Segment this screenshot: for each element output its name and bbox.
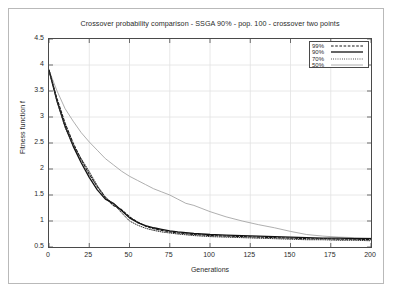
plot-area bbox=[48, 38, 372, 248]
chart-figure: Crossover probability comparison - SSGA … bbox=[0, 0, 394, 293]
y-tick-label: 0.5 bbox=[14, 242, 44, 249]
legend-line-swatch bbox=[330, 43, 366, 49]
legend-item: 90% bbox=[312, 49, 366, 55]
x-tick-label: 150 bbox=[270, 251, 310, 258]
legend-item: 50% bbox=[312, 62, 366, 68]
legend-label: 90% bbox=[312, 49, 330, 55]
x-tick-label: 25 bbox=[68, 251, 108, 258]
legend-label: 99% bbox=[312, 43, 330, 49]
x-tick-label: 0 bbox=[28, 251, 68, 258]
y-tick-label: 3 bbox=[14, 112, 44, 119]
y-tick-label: 3.5 bbox=[14, 86, 44, 93]
plot-lines bbox=[49, 39, 371, 247]
x-tick-label: 125 bbox=[229, 251, 269, 258]
legend-line-swatch bbox=[330, 56, 366, 62]
y-tick-label: 2 bbox=[14, 164, 44, 171]
legend-line-swatch bbox=[330, 62, 366, 68]
y-tick-label: 4 bbox=[14, 60, 44, 67]
legend: 99%90%70%50% bbox=[309, 41, 369, 68]
x-tick-label: 75 bbox=[149, 251, 189, 258]
legend-item: 99% bbox=[312, 43, 366, 49]
x-tick-label: 175 bbox=[310, 251, 350, 258]
legend-label: 50% bbox=[312, 62, 330, 68]
x-tick-label: 200 bbox=[350, 251, 390, 258]
x-axis-label: Generations bbox=[48, 266, 372, 273]
y-tick-label: 1.5 bbox=[14, 190, 44, 197]
legend-label: 70% bbox=[312, 56, 330, 62]
legend-line-swatch bbox=[330, 49, 366, 55]
x-tick-label: 50 bbox=[109, 251, 149, 258]
y-tick-label: 2.5 bbox=[14, 138, 44, 145]
chart-title: Crossover probability comparison - SSGA … bbox=[48, 19, 372, 28]
legend-item: 70% bbox=[312, 56, 366, 62]
y-tick-label: 1 bbox=[14, 216, 44, 223]
x-tick-label: 100 bbox=[189, 251, 229, 258]
y-tick-label: 4.5 bbox=[14, 34, 44, 41]
